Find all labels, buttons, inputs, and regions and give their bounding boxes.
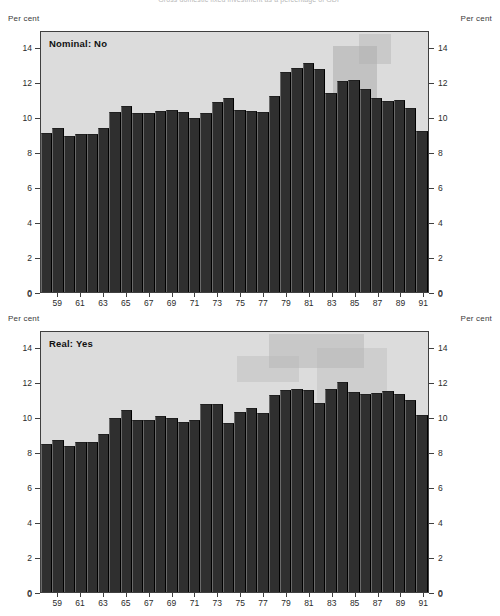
x-tick xyxy=(378,593,379,597)
y-tick-label: 10 xyxy=(438,414,454,423)
y-tick-label: 14 xyxy=(438,44,454,53)
bar xyxy=(132,113,143,292)
x-tick-label: 81 xyxy=(301,299,317,308)
y-tick xyxy=(35,488,40,489)
x-tick xyxy=(172,593,173,597)
y-tick-label: 2 xyxy=(16,554,32,563)
x-tick-label: 77 xyxy=(255,599,271,608)
x-tick xyxy=(355,293,356,297)
y-tick-label: 12 xyxy=(438,379,454,388)
bar xyxy=(223,98,234,292)
x-tick xyxy=(355,593,356,597)
bar xyxy=(394,100,405,292)
x-tick-label: 69 xyxy=(164,599,180,608)
x-tick xyxy=(217,293,218,297)
bar-series-nominal xyxy=(41,32,428,292)
y-tick-label: 6 xyxy=(16,484,32,493)
x-tick xyxy=(103,593,104,597)
x-tick xyxy=(126,593,127,597)
bar xyxy=(257,413,268,592)
bar xyxy=(416,131,427,292)
bar xyxy=(246,111,257,292)
x-tick-label: 65 xyxy=(118,599,134,608)
bar xyxy=(200,404,211,592)
bar xyxy=(314,403,325,592)
x-tick-label: 85 xyxy=(347,599,363,608)
x-tick xyxy=(423,293,424,297)
x-tick xyxy=(400,293,401,297)
x-tick-label: 83 xyxy=(324,299,340,308)
x-tick xyxy=(309,593,310,597)
bar xyxy=(371,393,382,592)
x-tick-label: 65 xyxy=(118,299,134,308)
bar xyxy=(269,96,280,292)
x-tick xyxy=(240,293,241,297)
bar xyxy=(416,415,427,592)
y-tick xyxy=(429,188,434,189)
y-tick-label: 4 xyxy=(16,219,32,228)
x-tick xyxy=(149,593,150,597)
x-tick-label: 77 xyxy=(255,299,271,308)
y-tick-label: 14 xyxy=(16,44,32,53)
bar xyxy=(98,128,109,292)
y-zero-label-left: 0 xyxy=(16,289,32,299)
y-axis-unit-left: Per cent xyxy=(8,14,39,23)
panel-real: Per cent Per cent Real: Yes 002244668810… xyxy=(0,314,500,616)
figure-title: Gross domestic fixed investment as a per… xyxy=(0,0,500,5)
bar xyxy=(348,80,359,292)
y-tick xyxy=(429,523,434,524)
y-axis-unit-left: Per cent xyxy=(8,314,39,323)
bar xyxy=(257,112,268,292)
x-tick xyxy=(332,293,333,297)
x-tick-label: 59 xyxy=(49,299,65,308)
x-tick-label: 85 xyxy=(347,299,363,308)
bar xyxy=(405,108,416,292)
bar xyxy=(280,390,291,592)
bar xyxy=(382,101,393,292)
x-tick xyxy=(286,293,287,297)
x-tick-label: 63 xyxy=(95,599,111,608)
x-tick xyxy=(126,293,127,297)
bar xyxy=(303,63,314,292)
bar xyxy=(234,110,245,292)
y-tick xyxy=(429,83,434,84)
x-tick-label: 75 xyxy=(232,599,248,608)
y-tick xyxy=(429,348,434,349)
x-tick xyxy=(286,593,287,597)
bar xyxy=(75,442,86,592)
y-tick xyxy=(35,293,40,294)
bar xyxy=(314,69,325,292)
x-tick-label: 75 xyxy=(232,299,248,308)
y-tick-label: 6 xyxy=(16,184,32,193)
y-tick xyxy=(429,223,434,224)
bar xyxy=(360,394,371,592)
x-tick-label: 91 xyxy=(415,599,431,608)
bar xyxy=(371,98,382,292)
y-tick-label: 2 xyxy=(16,254,32,263)
y-tick xyxy=(35,593,40,594)
x-tick xyxy=(217,593,218,597)
y-tick xyxy=(429,48,434,49)
bar xyxy=(382,391,393,592)
bar xyxy=(87,134,98,292)
bar xyxy=(166,418,177,592)
y-tick-label: 10 xyxy=(16,414,32,423)
x-tick-label: 91 xyxy=(415,299,431,308)
bar xyxy=(325,389,336,592)
x-tick-label: 83 xyxy=(324,599,340,608)
x-tick xyxy=(423,593,424,597)
y-tick-label: 4 xyxy=(16,519,32,528)
y-zero-label-left: 0 xyxy=(16,589,32,599)
bar xyxy=(143,420,154,592)
bar xyxy=(337,81,348,292)
x-tick xyxy=(332,593,333,597)
x-tick xyxy=(400,593,401,597)
x-tick xyxy=(80,293,81,297)
y-tick xyxy=(35,258,40,259)
bar xyxy=(394,394,405,592)
x-tick-label: 71 xyxy=(186,299,202,308)
x-tick xyxy=(240,593,241,597)
bar xyxy=(109,112,120,292)
x-tick-label: 73 xyxy=(209,299,225,308)
bar xyxy=(121,106,132,292)
